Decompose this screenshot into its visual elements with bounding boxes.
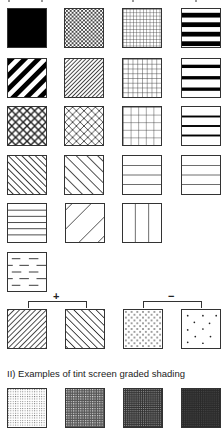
pattern-medium-horizontal-stripes: [181, 58, 221, 98]
clipped-mark: [195, 0, 197, 2]
pattern-fine-crosshatch: [64, 8, 104, 48]
tint-screen-caption: II) Examples of tint screen graded shadi…: [7, 368, 185, 379]
pattern-thin-horizontal-stripes: [181, 106, 221, 146]
pattern-thick-diagonal-stripes: [7, 58, 47, 98]
tint-dark: [123, 388, 163, 428]
plus-bracket: [28, 301, 87, 308]
pattern-sparse-backslash-lines: [64, 155, 104, 195]
plus-sign: +: [53, 291, 59, 302]
pattern-solid-black: [7, 8, 47, 48]
pattern-dashed-lines: [7, 252, 47, 292]
pattern-coarse-grid: [122, 106, 162, 146]
tint-medium: [65, 388, 105, 428]
clipped-mark: [8, 0, 10, 2]
pattern-fine-diagonal-lines: [64, 58, 104, 98]
pattern-medium-backslash-lines: [65, 309, 105, 349]
tint-light: [7, 388, 47, 428]
pattern-wide-horizontal-lines-2: [181, 155, 221, 195]
pattern-fine-grid: [122, 8, 162, 48]
minus-sign: −: [168, 291, 174, 302]
pattern-dense-diagonal-lines: [7, 309, 47, 349]
pattern-diamond-crosshatch: [64, 106, 104, 146]
pattern-dense-dots: [123, 309, 163, 349]
pattern-close-horizontal-lines: [7, 203, 47, 243]
pattern-medium-grid: [122, 58, 162, 98]
pattern-vertical-lines: [122, 203, 162, 243]
pattern-wide-horizontal-lines: [122, 155, 162, 195]
pattern-thick-horizontal-stripes: [181, 8, 221, 48]
tint-darkest: [181, 388, 221, 428]
pattern-sparse-dots: [181, 309, 221, 349]
clipped-mark: [41, 0, 43, 2]
pattern-wide-diagonal-lines: [65, 203, 105, 243]
clipped-mark: [132, 0, 134, 2]
pattern-dense-backslash-lines: [7, 155, 47, 195]
minus-bracket: [143, 301, 202, 308]
pattern-bold-diamond-crosshatch: [7, 106, 47, 146]
